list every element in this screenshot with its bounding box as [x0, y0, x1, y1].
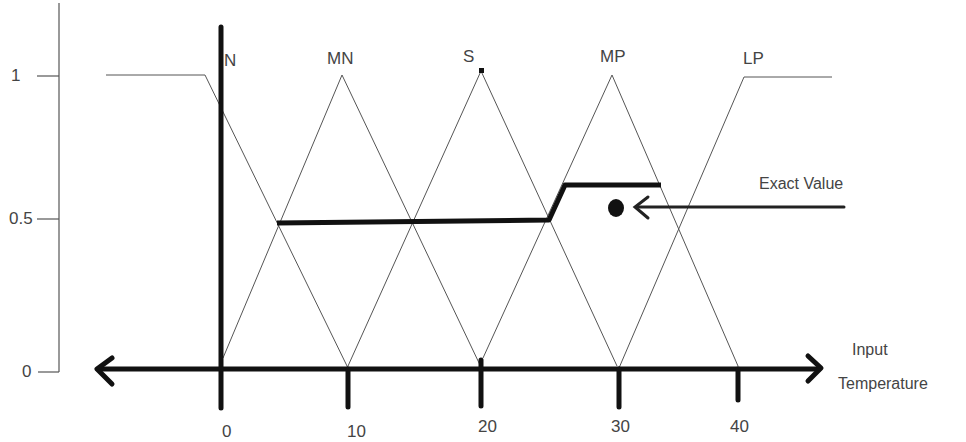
- x-tick-label-40: 40: [730, 418, 749, 435]
- aggregated-output-line: [277, 185, 661, 223]
- x-tick-label-20: 20: [478, 418, 497, 435]
- y-tick-label-0: 0: [22, 363, 31, 380]
- membership-diagram: [0, 0, 966, 442]
- set-lp-curve: [619, 77, 832, 368]
- x-axis-title-line1: Input: [852, 342, 888, 358]
- s-peak-marker: [479, 68, 484, 73]
- x-axis: [97, 356, 821, 407]
- set-label-s: S: [463, 48, 474, 65]
- set-label-mn: MN: [327, 50, 353, 67]
- x-tick-label-10: 10: [347, 423, 366, 440]
- set-label-n: N: [224, 52, 236, 69]
- x-tick-label-0: 0: [222, 423, 231, 440]
- x-axis-title-line2: Temperature: [838, 376, 928, 392]
- x-tick-label-30: 30: [611, 418, 630, 435]
- exact-value-label: Exact Value: [759, 176, 843, 192]
- y-tick-label-0-5: 0.5: [9, 210, 33, 227]
- y-tick-label-1: 1: [11, 67, 20, 84]
- set-label-lp: LP: [743, 50, 764, 67]
- y-axis: [37, 3, 59, 372]
- set-label-mp: MP: [600, 48, 626, 65]
- exact-value-dot: [608, 199, 624, 217]
